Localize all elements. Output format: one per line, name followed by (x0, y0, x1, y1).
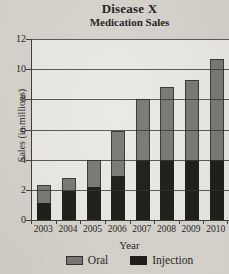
legend: Oral Injection (31, 254, 228, 266)
gridline-4 (32, 160, 229, 161)
x-tick-mark-5 (154, 221, 155, 224)
x-tick-mark-1 (56, 221, 57, 224)
injection-legend-swatch (130, 256, 147, 265)
y-tick-mark-8 (26, 99, 31, 100)
gridline-2 (32, 190, 229, 191)
x-tick-mark-7 (203, 221, 204, 224)
legend-item-injection: Injection (130, 254, 193, 266)
x-tick-label-2003: 2003 (31, 224, 56, 235)
bar-stack-2006 (111, 131, 125, 220)
injection-legend-label: Injection (152, 254, 193, 266)
y-tick-mark-10 (26, 69, 31, 70)
y-tick-label-8: 8 (6, 94, 26, 104)
x-axis-label: Year (31, 239, 228, 251)
bar-stack-2004 (62, 178, 76, 220)
x-tick-mark-0 (31, 221, 32, 224)
bar-2008-oral (160, 87, 174, 159)
y-tick-mark-12 (26, 39, 31, 40)
bar-2010-oral (210, 59, 224, 160)
y-tick-label-0: 0 (6, 215, 26, 225)
bar-2006-oral (111, 131, 125, 176)
bar-stack-2010 (210, 59, 224, 220)
x-tick-label-2008: 2008 (154, 224, 179, 235)
bar-2005-injection (87, 187, 101, 220)
legend-item-oral: Oral (66, 254, 108, 266)
chart-title: Disease X (31, 1, 228, 17)
oral-legend-swatch (66, 256, 83, 265)
x-tick-label-2007: 2007 (130, 224, 155, 235)
y-tick-label-6: 6 (6, 125, 26, 135)
gridline-8 (32, 99, 229, 100)
x-tick-mark-8 (227, 221, 228, 224)
y-tick-mark-2 (26, 190, 31, 191)
chart-figure: Disease X Medication Sales Sales (in mil… (0, 0, 229, 274)
gridline-12 (32, 39, 229, 40)
bar-2006-injection (111, 176, 125, 220)
x-tick-mark-6 (179, 221, 180, 224)
x-tick-label-2006: 2006 (105, 224, 130, 235)
y-tick-label-2: 2 (6, 185, 26, 195)
x-tick-label-2005: 2005 (80, 224, 105, 235)
oral-legend-label: Oral (88, 254, 108, 266)
gridline-10 (32, 69, 229, 70)
x-tick-mark-4 (130, 221, 131, 224)
chart-subtitle: Medication Sales (31, 16, 228, 28)
x-tick-label-2010: 2010 (203, 224, 228, 235)
bar-stack-2008 (160, 87, 174, 220)
y-tick-label-12: 12 (6, 34, 26, 44)
plot-area (31, 39, 229, 221)
y-tick-label-4: 4 (6, 155, 26, 165)
bar-2005-oral (87, 160, 101, 187)
bar-2009-oral (185, 80, 199, 160)
x-tick-mark-3 (105, 221, 106, 224)
gridline-6 (32, 130, 229, 131)
y-tick-mark-4 (26, 160, 31, 161)
y-tick-mark-6 (26, 130, 31, 131)
x-tick-label-2009: 2009 (179, 224, 204, 235)
bar-2004-injection (62, 191, 76, 220)
x-tick-mark-2 (80, 221, 81, 224)
y-tick-label-10: 10 (6, 64, 26, 74)
x-tick-label-2004: 2004 (56, 224, 81, 235)
bar-stack-2009 (185, 80, 199, 220)
bar-2003-oral (37, 185, 51, 203)
bar-2003-injection (37, 203, 51, 220)
